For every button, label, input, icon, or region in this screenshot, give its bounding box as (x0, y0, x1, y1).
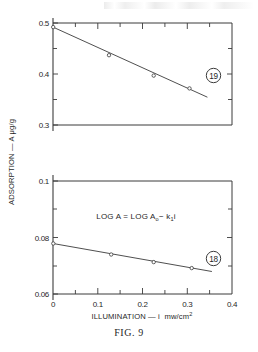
upper-yticklabel-0.3: 0.3 (39, 121, 50, 130)
badge-label-18: 18 (209, 255, 218, 264)
upper-panel-badge: 19 (206, 68, 220, 82)
lower-panel: 0.1 0.08 0.06 0 0.1 0.2 0.3 0.4 LOG A = … (35, 175, 238, 309)
upper-panel: 0.5 0.4 0.3 19 (39, 18, 232, 131)
x-axis-title-units: mw/cm (164, 312, 189, 321)
lower-fit-line (53, 244, 212, 272)
xticklabel-0.2: 0.2 (137, 300, 148, 309)
lower-data-point (110, 253, 113, 256)
equation-main: LOG A = LOG A (96, 212, 156, 221)
equation-minus-k: − k (159, 212, 171, 221)
lower-yticklabel-0.08: 0.08 (35, 234, 50, 243)
lower-data-point (190, 266, 193, 269)
lower-data-point (152, 260, 155, 263)
upper-yticklabel-0.5: 0.5 (39, 19, 50, 28)
xticklabel-0: 0 (51, 300, 56, 309)
xticklabel-0.4: 0.4 (227, 300, 238, 309)
figure-caption: FIG. 9 (0, 327, 258, 338)
upper-data-point (52, 25, 55, 28)
xticklabel-0.3: 0.3 (182, 300, 193, 309)
lower-yticklabel-0.06: 0.06 (35, 290, 50, 299)
x-axis-title-exponent: 2 (189, 311, 192, 317)
lower-panel-badge: 18 (206, 251, 220, 265)
y-axis-title: ADSORPTION — A μg/g (7, 119, 16, 205)
badge-label-19: 19 (209, 72, 218, 81)
lower-yticklabel-0.1: 0.1 (39, 177, 50, 186)
figure-container: 0.5 0.4 0.3 19 (0, 0, 258, 352)
upper-yticklabel-0.4: 0.4 (39, 70, 50, 79)
upper-fit-line (53, 27, 207, 97)
upper-data-point (188, 87, 191, 90)
xticklabel-0.1: 0.1 (93, 300, 104, 309)
equation-annotation: LOG A = LOG Ao− k1i (96, 212, 175, 222)
equation-tail-i: i (174, 212, 176, 221)
upper-data-point (152, 74, 155, 77)
x-axis-title-main: ILLUMINATION — i (91, 312, 160, 321)
x-axis-title: ILLUMINATION — i mw/cm2 (91, 311, 192, 321)
figure-plot-area: 0.5 0.4 0.3 19 (0, 0, 258, 352)
upper-data-point (107, 54, 110, 57)
lower-data-point (52, 242, 55, 245)
